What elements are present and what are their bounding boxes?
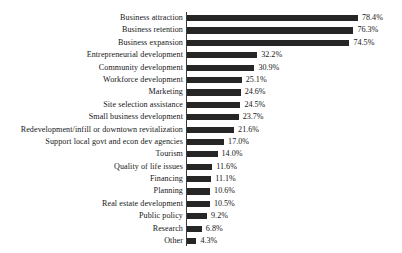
category-label: Tourism xyxy=(156,148,183,160)
bar xyxy=(187,226,202,232)
bar xyxy=(187,89,241,95)
bar-fill xyxy=(187,201,210,207)
bar-rows-container: Business attraction78.4%Business retenti… xyxy=(0,12,402,247)
bar-fill xyxy=(187,40,349,46)
bar xyxy=(187,238,196,244)
category-label: Entrepreneurial development xyxy=(87,49,183,61)
bar-value-label: 17.0% xyxy=(228,136,249,148)
bar xyxy=(187,127,234,133)
bar-value-label: 25.1% xyxy=(246,74,267,86)
bar-row: Site selection assistance24.5% xyxy=(0,99,402,111)
bar-value-label: 24.6% xyxy=(245,86,266,98)
bar-fill xyxy=(187,139,224,145)
bar xyxy=(187,139,224,145)
bar xyxy=(187,201,210,207)
bar-fill xyxy=(187,151,218,157)
category-label: Quality of life issues xyxy=(114,161,183,173)
bar xyxy=(187,176,211,182)
bar xyxy=(187,27,353,33)
bar-value-label: 10.5% xyxy=(214,198,235,210)
bar xyxy=(187,151,218,157)
bar-value-label: 9.2% xyxy=(211,210,228,222)
bar xyxy=(187,77,242,83)
bar-value-label: 24.5% xyxy=(244,99,265,111)
category-label: Real estate development xyxy=(102,198,183,210)
bar-row: Workforce development25.1% xyxy=(0,74,402,86)
bar xyxy=(187,114,239,120)
bar-fill xyxy=(187,226,202,232)
bar-value-label: 78.4% xyxy=(362,12,383,24)
bar-fill xyxy=(187,102,240,108)
category-label: Business retention xyxy=(122,24,183,36)
bar-fill xyxy=(187,176,211,182)
bar-row: Other4.3% xyxy=(0,235,402,247)
bar-fill xyxy=(187,114,239,120)
bar-row: Small business development23.7% xyxy=(0,111,402,123)
category-label: Site selection assistance xyxy=(103,99,183,111)
category-label: Redevelopment/infill or downtown revital… xyxy=(21,124,183,136)
bar-value-label: 30.9% xyxy=(258,62,279,74)
horizontal-bar-chart: Business attraction78.4%Business retenti… xyxy=(0,0,402,253)
category-label: Public policy xyxy=(139,210,183,222)
category-label: Planning xyxy=(154,185,183,197)
bar-value-label: 11.6% xyxy=(216,161,237,173)
bar xyxy=(187,188,210,194)
bar-row: Marketing24.6% xyxy=(0,86,402,98)
bar-row: Research6.8% xyxy=(0,223,402,235)
bar-value-label: 21.6% xyxy=(238,124,259,136)
bar-value-label: 10.6% xyxy=(214,185,235,197)
bar-fill xyxy=(187,89,241,95)
bar-value-label: 6.8% xyxy=(206,223,223,235)
bar xyxy=(187,213,207,219)
bar-row: Redevelopment/infill or downtown revital… xyxy=(0,124,402,136)
bar-fill xyxy=(187,27,353,33)
bar-value-label: 32.2% xyxy=(261,49,282,61)
bar-row: Quality of life issues11.6% xyxy=(0,161,402,173)
bar-row: Financing11.1% xyxy=(0,173,402,185)
bar-fill xyxy=(187,213,207,219)
bar-row: Planning10.6% xyxy=(0,185,402,197)
bar-fill xyxy=(187,164,212,170)
bar-value-label: 23.7% xyxy=(243,111,264,123)
bar-row: Business attraction78.4% xyxy=(0,12,402,24)
bar-row: Community development30.9% xyxy=(0,62,402,74)
bar-fill xyxy=(187,65,254,71)
bar xyxy=(187,15,358,21)
category-label: Small business development xyxy=(89,111,183,123)
bar-fill xyxy=(187,127,234,133)
category-label: Other xyxy=(164,235,183,247)
bar-fill xyxy=(187,77,242,83)
category-label: Support local govt and econ dev agencies xyxy=(45,136,183,148)
bar-value-label: 14.0% xyxy=(222,148,243,160)
bar-value-label: 4.3% xyxy=(200,235,217,247)
bar-value-label: 11.1% xyxy=(215,173,236,185)
bar-value-label: 76.3% xyxy=(357,24,378,36)
bar-row: Entrepreneurial development32.2% xyxy=(0,49,402,61)
bar-row: Business expansion74.5% xyxy=(0,37,402,49)
category-label: Workforce development xyxy=(103,74,183,86)
bar-row: Business retention76.3% xyxy=(0,24,402,36)
bar-row: Real estate development10.5% xyxy=(0,198,402,210)
category-label: Business expansion xyxy=(118,37,183,49)
bar-fill xyxy=(187,52,257,58)
category-label: Business attraction xyxy=(120,12,183,24)
bar-fill xyxy=(187,238,196,244)
bar-row: Public policy9.2% xyxy=(0,210,402,222)
bar-value-label: 74.5% xyxy=(353,37,374,49)
bar-row: Support local govt and econ dev agencies… xyxy=(0,136,402,148)
bar-fill xyxy=(187,15,358,21)
category-label: Marketing xyxy=(149,86,183,98)
category-label: Research xyxy=(153,223,183,235)
bar-row: Tourism14.0% xyxy=(0,148,402,160)
bar-fill xyxy=(187,188,210,194)
category-label: Financing xyxy=(150,173,183,185)
bar xyxy=(187,40,349,46)
bar xyxy=(187,164,212,170)
bar xyxy=(187,52,257,58)
bar xyxy=(187,65,254,71)
category-label: Community development xyxy=(99,62,183,74)
bar xyxy=(187,102,240,108)
